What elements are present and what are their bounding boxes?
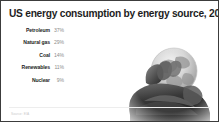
bar-percent-petroleum: 37% <box>50 26 66 35</box>
bar-track-petroleum <box>66 26 210 35</box>
bar-row-natural-gas: Natural gas 29% <box>9 38 210 47</box>
bar-label-coal: Coal <box>9 51 50 60</box>
chart-content: US energy consumption by energy source, … <box>1 1 218 85</box>
bar-label-petroleum: Petroleum <box>9 26 50 35</box>
chart-title: US energy consumption by energy source, … <box>9 8 210 20</box>
bar-label-renewables: Renewables <box>9 63 50 72</box>
bar-percent-renewables: 11% <box>50 63 66 72</box>
bar-row-petroleum: Petroleum 37% <box>9 26 210 35</box>
bar-label-nuclear: Nuclear <box>9 76 50 85</box>
bar-row-renewables: Renewables 11% <box>9 63 210 72</box>
chart-card: US energy consumption by energy source, … <box>0 0 219 122</box>
footer-divider <box>9 107 210 108</box>
source-note: Source: EIA <box>11 112 29 116</box>
bar-track-coal <box>66 51 210 60</box>
bar-percent-nuclear: 9% <box>50 76 66 85</box>
bar-track-nuclear <box>66 76 210 85</box>
bar-rows: Petroleum 37% Natural gas 29% Coal 14% <box>9 26 210 85</box>
bar-percent-natural-gas: 29% <box>50 38 66 47</box>
bar-label-natural-gas: Natural gas <box>9 38 50 47</box>
bar-row-coal: Coal 14% <box>9 51 210 60</box>
bar-percent-coal: 14% <box>50 51 66 60</box>
bar-track-natural-gas <box>66 38 210 47</box>
bar-row-nuclear: Nuclear 9% <box>9 76 210 85</box>
bar-track-renewables <box>66 63 210 72</box>
